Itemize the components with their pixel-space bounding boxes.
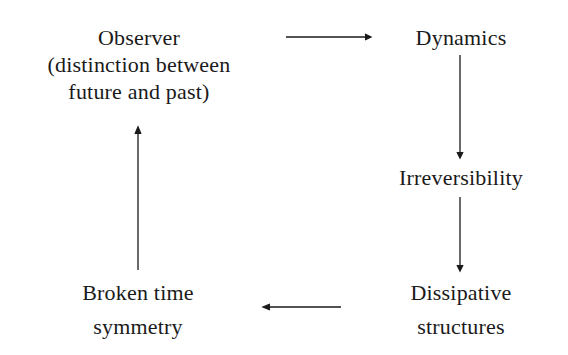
- arrows-layer: [0, 0, 568, 355]
- arrow-irreversibility-to-dissipative: [457, 197, 463, 271]
- arrow-broken-symmetry-to-observer: [135, 127, 141, 270]
- arrow-dynamics-to-irreversibility: [457, 55, 463, 158]
- arrow-dissipative-to-broken-symmetry: [263, 304, 341, 310]
- arrow-observer-to-dynamics: [286, 34, 371, 40]
